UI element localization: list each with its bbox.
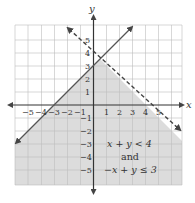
svg-text:5: 5 <box>85 36 90 45</box>
svg-text:4: 4 <box>143 108 148 117</box>
shaded-region <box>15 59 182 185</box>
and-label: and <box>121 151 139 162</box>
svg-text:−2: −2 <box>61 108 73 117</box>
inequality-2: −x + y ≤ 3 <box>104 164 157 175</box>
svg-text:1: 1 <box>85 88 90 97</box>
svg-text:3: 3 <box>85 62 90 71</box>
svg-text:1: 1 <box>104 108 109 117</box>
x-axis-label: x <box>186 99 192 110</box>
svg-text:−4: −4 <box>80 153 92 162</box>
svg-text:3: 3 <box>130 108 135 117</box>
svg-text:−5: −5 <box>22 108 34 117</box>
svg-text:2: 2 <box>117 108 122 117</box>
svg-text:−3: −3 <box>80 140 92 149</box>
inequality-graph: x y −5 −4 −3 −2 −1 1 2 3 4 5 5 4 3 2 1 −… <box>0 0 195 203</box>
svg-text:−5: −5 <box>80 166 92 175</box>
svg-text:−1: −1 <box>80 114 92 123</box>
svg-text:−4: −4 <box>35 108 47 117</box>
svg-text:−3: −3 <box>48 108 60 117</box>
inequality-1: x + y < 4 <box>107 138 152 149</box>
y-axis-label: y <box>88 3 95 14</box>
svg-text:2: 2 <box>85 75 90 84</box>
svg-text:−2: −2 <box>80 127 92 136</box>
svg-text:4: 4 <box>85 49 90 58</box>
svg-text:5: 5 <box>156 108 161 117</box>
